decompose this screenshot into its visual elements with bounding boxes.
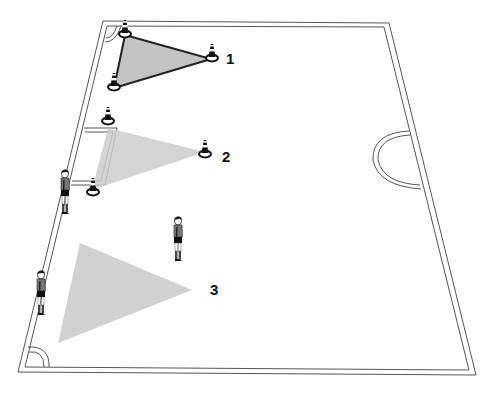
drill-diagram: [0, 0, 491, 394]
player-icon: [37, 270, 46, 315]
zone-1-triangle: [114, 35, 211, 88]
zone-label-3: 3: [210, 282, 218, 297]
cone-icon: [102, 107, 114, 125]
player-icon: [61, 169, 70, 214]
corner-arc-bottom-left: [28, 347, 49, 367]
cone-icon: [206, 44, 218, 62]
zone-label-1: 1: [226, 51, 234, 66]
cone-icon: [199, 140, 211, 158]
player-icon: [174, 216, 183, 261]
zone-label-2: 2: [222, 149, 230, 164]
zone-2-triangle: [92, 128, 205, 190]
zone-3-triangle: [58, 243, 192, 343]
cone-icon: [119, 20, 131, 38]
center-circle: [373, 131, 421, 189]
